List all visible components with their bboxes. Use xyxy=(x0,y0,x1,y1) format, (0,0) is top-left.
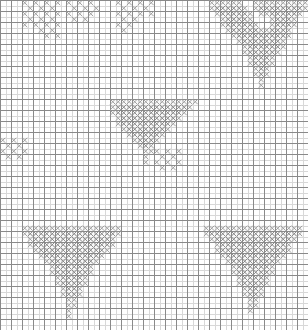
cross-stitch-grid-canvas xyxy=(0,0,308,330)
cross-stitch-chart-page: Cross Stitch Pattern Chart xyxy=(0,0,308,330)
